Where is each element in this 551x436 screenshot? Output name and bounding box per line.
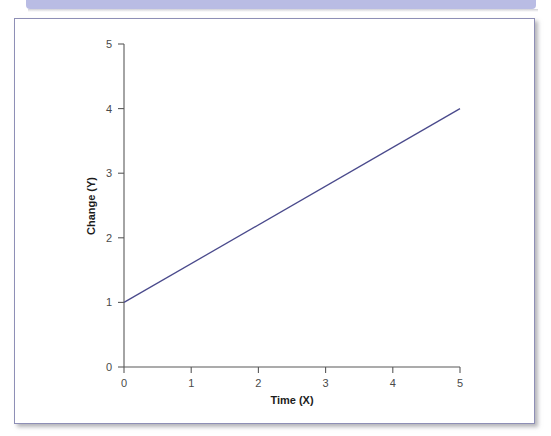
chart-frame	[14, 18, 535, 424]
top-banner	[26, 0, 536, 9]
top-banner-shadow	[28, 9, 538, 12]
